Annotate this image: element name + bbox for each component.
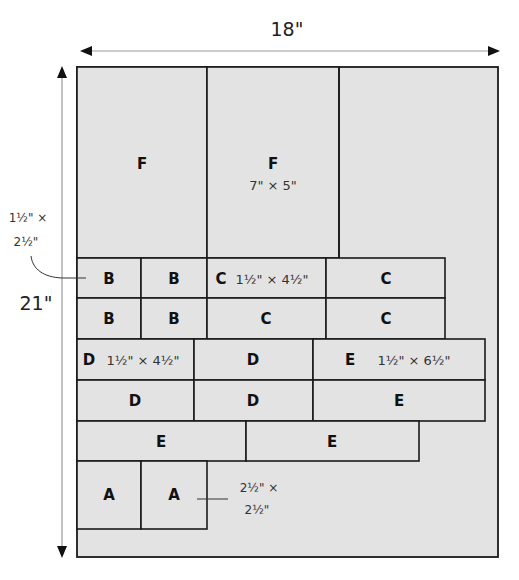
piece-a-2-label: A: [168, 486, 180, 504]
piece-e-3-label: E: [156, 433, 166, 451]
piece-b-size-line1: 1½" ×: [9, 211, 48, 225]
height-label: 21": [20, 292, 53, 314]
quilt-layout-diagram: 18" 21" F F 7" × 5" B B C 1½" × 4½" C B …: [0, 0, 519, 580]
piece-b-4-label: B: [168, 310, 179, 328]
piece-c-size: 1½" × 4½": [236, 272, 309, 287]
piece-f-1-label: F: [137, 155, 147, 173]
piece-d-1-label: D: [83, 351, 95, 369]
piece-c-4-label: C: [380, 310, 391, 328]
piece-a-size-line2: 2½": [245, 503, 270, 517]
width-dimension: 18": [80, 18, 500, 56]
piece-d-2-label: D: [247, 351, 259, 369]
b-size-callout: 1½" × 2½": [9, 211, 86, 278]
arrow-left-icon: [80, 46, 92, 56]
row-e: [77, 421, 419, 461]
piece-b-3-label: B: [103, 310, 114, 328]
arrow-right-icon: [488, 46, 500, 56]
piece-e-1-label: E: [345, 351, 355, 369]
piece-e-4-label: E: [327, 433, 337, 451]
piece-b-size-line2: 2½": [14, 235, 39, 249]
piece-b-1-label: B: [103, 270, 114, 288]
piece-f-2-label: F: [268, 155, 278, 173]
piece-d-3-label: D: [129, 392, 141, 410]
piece-c-1-label: C: [215, 270, 226, 288]
piece-b-2-label: B: [168, 270, 179, 288]
piece-c-3-label: C: [260, 310, 271, 328]
piece-e-2-label: E: [394, 392, 404, 410]
row-f: [77, 67, 339, 258]
piece-f-size: 7" × 5": [249, 178, 297, 193]
arrow-up-icon: [57, 66, 67, 78]
row-a: [77, 461, 207, 529]
piece-d-4-label: D: [247, 392, 259, 410]
piece-d-size: 1½" × 4½": [107, 353, 180, 368]
piece-a-size-line1: 2½" ×: [240, 481, 279, 495]
piece-a-1-label: A: [103, 486, 115, 504]
piece-e-size: 1½" × 6½": [378, 353, 451, 368]
piece-c-2-label: C: [380, 270, 391, 288]
width-label: 18": [271, 18, 304, 40]
height-dimension: 21": [14, 66, 67, 558]
arrow-down-icon: [57, 546, 67, 558]
